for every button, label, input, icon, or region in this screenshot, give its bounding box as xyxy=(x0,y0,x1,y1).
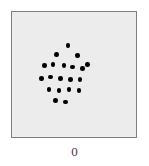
data-point xyxy=(80,66,85,71)
scatter-figure: 0 xyxy=(0,0,149,166)
data-point xyxy=(70,65,75,70)
data-point xyxy=(53,98,58,103)
data-point xyxy=(42,63,47,68)
data-point xyxy=(85,62,90,67)
data-point xyxy=(62,63,67,68)
data-point xyxy=(47,87,52,92)
data-point xyxy=(68,77,73,82)
plot-panel xyxy=(11,11,137,138)
data-point xyxy=(48,75,53,80)
x-axis-label: 0 xyxy=(0,144,149,159)
data-point xyxy=(77,88,82,93)
data-point xyxy=(39,76,44,81)
data-point xyxy=(66,43,71,48)
data-point xyxy=(78,77,83,82)
data-point xyxy=(58,76,63,81)
data-point xyxy=(63,100,68,105)
data-point xyxy=(54,52,59,57)
data-point xyxy=(67,87,72,92)
data-point xyxy=(75,53,80,58)
data-point xyxy=(57,88,62,93)
scatter-points-layer xyxy=(12,12,136,137)
data-point xyxy=(51,62,56,67)
